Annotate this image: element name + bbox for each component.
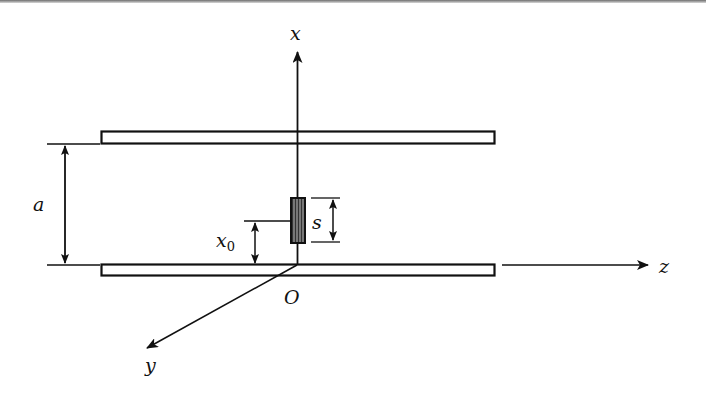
x0-dimension-label: x0 (216, 229, 235, 254)
x0-label-subscript: 0 (227, 239, 235, 254)
x0-label-base: x (216, 229, 227, 251)
x-axis-label: x (290, 22, 301, 44)
y-axis (147, 265, 297, 348)
origin-label: O (284, 286, 300, 308)
waveguide-diagram: x z y O a x0 s (0, 0, 706, 397)
y-axis-label: y (144, 354, 156, 376)
z-axis-label: z (658, 255, 670, 277)
a-dimension-label: a (33, 193, 44, 215)
s-dimension-label: s (312, 211, 322, 233)
probe-element (291, 198, 305, 243)
bottom-plate (102, 265, 495, 276)
